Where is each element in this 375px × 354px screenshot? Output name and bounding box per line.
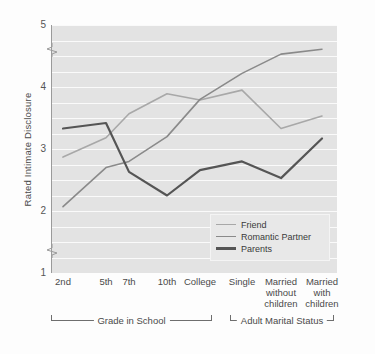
bracket-label: Adult Marital Status	[237, 314, 327, 327]
x-tick-label: Marriedwithchildren	[305, 276, 338, 309]
x-tick-label: College	[184, 276, 216, 287]
legend-swatch	[216, 224, 236, 226]
y-axis-title: Rated Intimate Disclosure	[22, 50, 33, 250]
bracket-cap-right	[211, 315, 212, 321]
chart-figure: 12345 Rated Intimate Disclosure 2nd5th7t…	[0, 0, 375, 354]
y-tick-label: 5	[24, 20, 46, 30]
legend-label: Friend	[241, 220, 267, 230]
group-bracket-0: Grade in School	[51, 314, 212, 330]
x-tick-label: Single	[229, 276, 255, 287]
chart-legend: FriendRomantic PartnerParents	[210, 214, 330, 261]
x-tick-label: Marriedwithoutchildren	[264, 276, 297, 309]
bracket-cap-left	[230, 315, 231, 321]
bracket-label: Grade in School	[93, 314, 169, 327]
y-axis-line	[51, 25, 52, 273]
x-tick-line1: Single	[229, 276, 255, 287]
x-tick-line1: 5th	[99, 276, 112, 287]
axis-break-mark	[46, 43, 58, 57]
legend-item-1: Romantic Partner	[216, 231, 324, 242]
legend-label: Parents	[241, 244, 272, 254]
x-tick-label: 10th	[158, 276, 177, 287]
group-bracket-1: Adult Marital Status	[230, 314, 334, 330]
x-tick-line2: with	[305, 287, 338, 298]
legend-swatch	[216, 247, 236, 249]
group-brackets: Grade in SchoolAdult Marital Status	[0, 314, 375, 336]
x-tick-label: 2nd	[55, 276, 71, 287]
legend-label: Romantic Partner	[241, 232, 311, 242]
x-tick-line1: 10th	[158, 276, 177, 287]
x-tick-line1: Married	[264, 276, 297, 287]
legend-swatch	[216, 236, 236, 238]
x-tick-label: 7th	[122, 276, 135, 287]
legend-item-0: Friend	[216, 219, 324, 230]
x-tick-line2: without	[264, 287, 297, 298]
x-tick-label: 5th	[99, 276, 112, 287]
x-tick-line1: College	[184, 276, 216, 287]
x-tick-line3: children	[264, 298, 297, 309]
x-tick-line1: 7th	[122, 276, 135, 287]
axis-break-mark	[46, 244, 58, 258]
bracket-cap-left	[51, 315, 52, 321]
x-tick-line3: children	[305, 298, 338, 309]
x-tick-line1: 2nd	[55, 276, 71, 287]
x-tick-line1: Married	[305, 276, 338, 287]
x-axis-tick-labels: 2nd5th7th10thCollegeSingleMarriedwithout…	[0, 276, 375, 312]
series-line-2	[63, 123, 322, 196]
bracket-cap-right	[333, 315, 334, 321]
legend-item-2: Parents	[216, 243, 324, 254]
